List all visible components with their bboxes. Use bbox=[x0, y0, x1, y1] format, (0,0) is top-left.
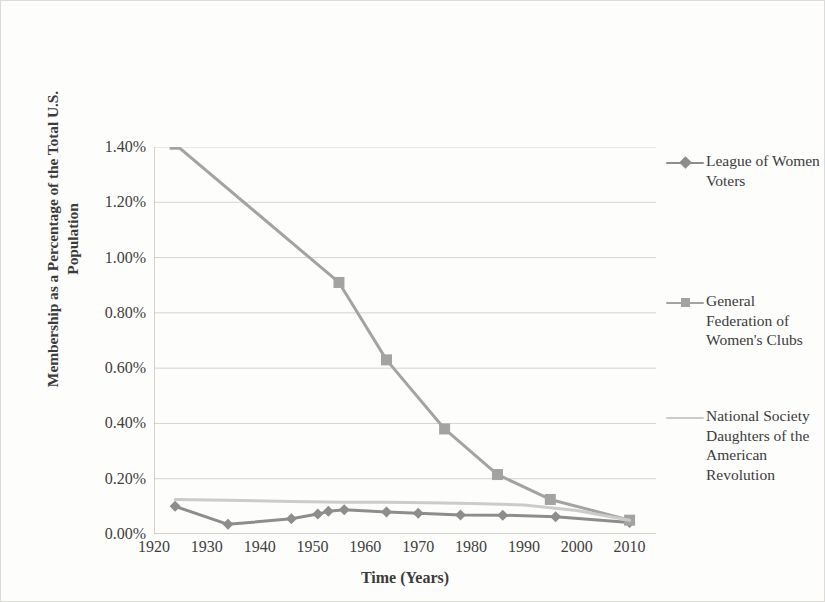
series-0 bbox=[170, 501, 635, 530]
x-tick-label: 1940 bbox=[230, 538, 290, 556]
x-tick-label: 2010 bbox=[600, 538, 660, 556]
x-tick-label: 2000 bbox=[547, 538, 607, 556]
legend-square-marker-icon bbox=[666, 295, 704, 311]
y-tick-label: 0.80% bbox=[66, 305, 146, 321]
x-tick-label: 1980 bbox=[441, 538, 501, 556]
axis-tick-marks bbox=[154, 147, 656, 534]
legend-none-marker-icon bbox=[666, 410, 704, 426]
series-1 bbox=[170, 147, 635, 526]
x-tick-label: 1970 bbox=[388, 538, 448, 556]
plot-area bbox=[154, 147, 656, 534]
legend-label: National Society Daughters of the Americ… bbox=[704, 406, 824, 484]
x-tick-label: 1960 bbox=[335, 538, 395, 556]
legend-item[interactable]: National Society Daughters of the Americ… bbox=[666, 406, 824, 484]
axis-lines bbox=[154, 147, 656, 534]
legend-label: League of Women Voters bbox=[704, 151, 824, 190]
x-axis-title: Time (Years) bbox=[154, 569, 656, 587]
x-tick-label: 1930 bbox=[177, 538, 237, 556]
legend-label: General Federation of Women's Clubs bbox=[704, 291, 824, 350]
y-tick-label: 1.00% bbox=[66, 250, 146, 266]
y-tick-label: 0.40% bbox=[66, 415, 146, 431]
gridlines bbox=[154, 147, 656, 534]
x-tick-label: 1990 bbox=[494, 538, 554, 556]
data-series-layer bbox=[170, 147, 635, 530]
chart-canvas bbox=[154, 147, 656, 534]
y-tick-label: 0.60% bbox=[66, 360, 146, 376]
y-axis-tick-labels: 0.00%0.20%0.40%0.60%0.80%1.00%1.20%1.40% bbox=[58, 1, 146, 602]
y-tick-label: 1.20% bbox=[66, 194, 146, 210]
y-tick-label: 0.20% bbox=[66, 471, 146, 487]
legend-diamond-marker-icon bbox=[666, 155, 704, 171]
y-tick-label: 1.40% bbox=[66, 139, 146, 155]
x-tick-label: 1920 bbox=[124, 538, 184, 556]
x-tick-label: 1950 bbox=[283, 538, 343, 556]
chart-figure: Membership as a Percentage of the Total … bbox=[0, 0, 825, 602]
legend-item[interactable]: General Federation of Women's Clubs bbox=[666, 291, 824, 350]
legend-item[interactable]: League of Women Voters bbox=[666, 151, 824, 190]
